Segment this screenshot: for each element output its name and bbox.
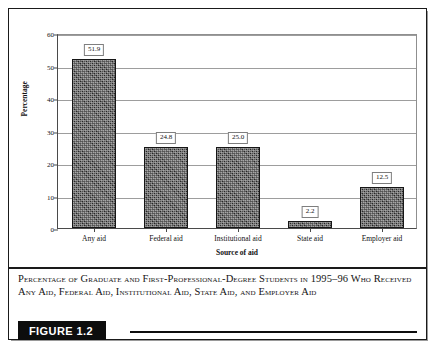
caption-divider: [9, 267, 426, 269]
bar-value-label: 25.0: [228, 132, 248, 144]
x-axis-tick-label: Institutional aid: [214, 234, 261, 243]
figure-frame: Percentage 0102030405060 51.9Any aid24.8…: [8, 8, 427, 340]
figure-badge-group: FIGURE 1.2: [18, 321, 417, 341]
bar[interactable]: [216, 147, 260, 228]
bar[interactable]: [72, 59, 116, 228]
y-axis-tick-label: 0: [51, 226, 55, 234]
bar-group: 12.5Employer aid: [346, 35, 418, 228]
y-axis-tick-label: 30: [47, 129, 54, 137]
bar[interactable]: [360, 187, 404, 228]
x-axis-tick-mark: [166, 228, 167, 232]
bar-group: 51.9Any aid: [58, 35, 130, 228]
bar-value-label: 2.2: [302, 206, 319, 218]
bar[interactable]: [144, 147, 188, 228]
x-axis-tick-mark: [238, 228, 239, 232]
figure-caption: Percentage of Graduate and First-Profess…: [18, 272, 417, 299]
x-axis-title: Source of aid: [57, 248, 417, 257]
x-axis-tick-label: Any aid: [82, 234, 106, 243]
y-axis-title: Percentage: [20, 103, 29, 117]
y-axis-tick-label: 50: [47, 64, 54, 72]
x-axis-tick-label: Employer aid: [362, 234, 403, 243]
bar[interactable]: [288, 221, 332, 228]
bar-value-label: 12.5: [372, 172, 392, 184]
bar-value-label: 51.9: [84, 44, 104, 56]
plot-area: 0102030405060 51.9Any aid24.8Federal aid…: [57, 34, 417, 229]
bars-layer: 51.9Any aid24.8Federal aid25.0Institutio…: [58, 35, 416, 228]
bar-group: 2.2State aid: [274, 35, 346, 228]
figure-number-badge: FIGURE 1.2: [18, 321, 106, 341]
x-axis-tick-label: State aid: [297, 234, 323, 243]
y-axis-tick-label: 10: [47, 194, 54, 202]
y-axis-tick-label: 20: [47, 161, 54, 169]
x-axis-tick-label: Federal aid: [149, 234, 183, 243]
y-axis-tick-mark: [54, 230, 58, 231]
x-axis-tick-mark: [310, 228, 311, 232]
y-axis-tick-label: 60: [47, 31, 54, 39]
bar-group: 24.8Federal aid: [130, 35, 202, 228]
figure-badge-rule: [130, 331, 417, 333]
figure-container: Percentage 0102030405060 51.9Any aid24.8…: [0, 0, 437, 357]
bar-value-label: 24.8: [156, 132, 176, 144]
bar-group: 25.0Institutional aid: [202, 35, 274, 228]
x-axis-tick-mark: [382, 228, 383, 232]
chart-region: Percentage 0102030405060 51.9Any aid24.8…: [9, 9, 425, 264]
y-axis-tick-label: 40: [47, 96, 54, 104]
x-axis-tick-mark: [94, 228, 95, 232]
